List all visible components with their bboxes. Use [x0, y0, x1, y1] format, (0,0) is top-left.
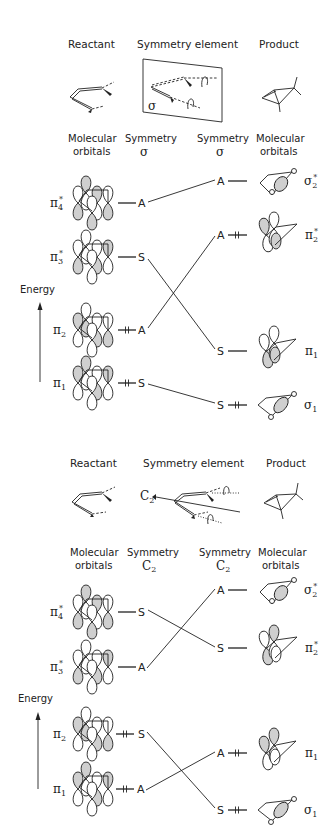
- reactant-orbital-pi4-star-2: π4*: [50, 585, 113, 639]
- svg-text:π1: π1: [53, 376, 66, 392]
- svg-text:C2: C2: [142, 559, 156, 574]
- energy-label: Energy: [20, 284, 55, 295]
- right-mo-header-2b: orbitals: [262, 560, 299, 571]
- reactant-orbital-pi2-2: π2: [53, 707, 113, 761]
- right-sym-header-1: Symmetry: [197, 133, 249, 144]
- right-sym-header-2b: C: [216, 559, 225, 573]
- right-sym-pi2-star: A: [217, 229, 225, 242]
- right-sym-pi1-2: A: [217, 747, 225, 760]
- svg-text:σ1: σ1: [304, 398, 317, 414]
- reactant-orbital-pi2: π2: [53, 303, 113, 357]
- left-sym-pi4-star: A: [138, 197, 146, 210]
- svg-text:σ1: σ1: [304, 803, 317, 819]
- left-sym-pi4-star-2: S: [138, 606, 145, 619]
- right-mo-header-2: orbitals: [260, 146, 297, 157]
- svg-text:σ2*: σ2*: [304, 173, 317, 190]
- svg-text:π2*: π2*: [305, 640, 318, 657]
- left-sym-pi1-2: A: [137, 783, 145, 796]
- left-sym-header-1b: Symmetry: [127, 547, 179, 558]
- reactant-orbital-pi3-star-2: π3*: [50, 640, 113, 694]
- svg-text:π4*: π4*: [50, 604, 63, 621]
- mirror-plane-element: σ: [143, 59, 222, 122]
- product-orbital-pi1-2: π1: [258, 728, 318, 771]
- right-mo-header-1: Molecular: [256, 133, 305, 144]
- right-sym-pi2-star-2: S: [217, 642, 224, 655]
- product-orbital-sigma2-star: σ2*: [260, 169, 317, 196]
- right-sym-sigma2-star-2: A: [217, 584, 225, 597]
- correlation-lines-bottom: [146, 589, 215, 808]
- product-molecule: [262, 77, 301, 112]
- top-panel: Reactant Symmetry element Product σ: [20, 38, 318, 420]
- reactant-header: Reactant: [68, 38, 115, 50]
- svg-text:π1: π1: [53, 782, 66, 798]
- sigma-label: σ: [148, 99, 156, 113]
- correlation-lines-top: [148, 180, 215, 403]
- svg-text:σ2*: σ2*: [304, 582, 317, 599]
- left-sym-pi3-star: S: [138, 251, 145, 264]
- reactant-molecule-2: [72, 487, 115, 517]
- svg-text:π1: π1: [305, 344, 318, 360]
- svg-text:C2: C2: [216, 559, 230, 574]
- product-orbital-pi2-star: π2*: [258, 212, 318, 253]
- left-mo-header-1b: Molecular: [70, 547, 119, 558]
- reactant-molecule: [70, 82, 114, 113]
- right-mo-header-1b: Molecular: [258, 547, 307, 558]
- product-orbital-pi2-star-2: π2*: [258, 625, 318, 666]
- product-header-2: Product: [266, 457, 306, 469]
- left-mo-header-2: orbitals: [73, 146, 110, 157]
- right-sym-sigma1-2: S: [217, 804, 224, 817]
- correlation-diagram: Reactant Symmetry element Product σ: [0, 0, 332, 840]
- right-sym-header-1b: Symmetry: [199, 547, 251, 558]
- right-sym-sigma2-star: A: [217, 175, 225, 188]
- reactant-orbital-pi1-2: π1: [53, 762, 113, 816]
- svg-text:π3*: π3*: [50, 659, 63, 676]
- product-orbital-sigma2-star-2: σ2*: [260, 578, 317, 605]
- product-orbital-sigma1: σ1: [258, 392, 317, 420]
- left-sym-pi2: A: [138, 324, 146, 337]
- symmetry-element-header: Symmetry element: [137, 38, 238, 50]
- symmetry-element-header-2: Symmetry element: [143, 457, 244, 469]
- left-sym-header-2b: C: [142, 559, 151, 573]
- svg-text:π1: π1: [305, 746, 318, 762]
- product-orbital-pi1: π1: [258, 326, 318, 369]
- c2-axis-element: C2: [140, 486, 240, 524]
- reactant-orbital-pi1: π1: [53, 356, 113, 410]
- product-header: Product: [259, 38, 299, 50]
- reactant-orbital-pi3-star: π3*: [50, 230, 113, 284]
- product-molecule-2: [264, 483, 303, 519]
- left-sym-pi3-star-2: A: [138, 661, 146, 674]
- left-mo-header-2b: orbitals: [75, 560, 112, 571]
- svg-text:π3*: π3*: [50, 249, 63, 266]
- left-sym-pi2-2: S: [138, 728, 145, 741]
- right-sym-sigma1: S: [217, 399, 224, 412]
- svg-text:π2*: π2*: [305, 227, 318, 244]
- product-orbital-sigma1-2: σ1: [258, 797, 317, 825]
- left-sym-header-1: Symmetry: [125, 133, 177, 144]
- svg-text:π2: π2: [53, 727, 66, 743]
- svg-text:π4*: π4*: [50, 195, 63, 212]
- left-sym-header-2: σ: [140, 145, 148, 159]
- reactant-orbital-pi4-star: π4*: [50, 176, 113, 230]
- svg-text:π2: π2: [53, 323, 66, 339]
- energy-label-2: Energy: [18, 693, 53, 704]
- right-sym-pi1: S: [217, 345, 224, 358]
- bottom-panel: Reactant Symmetry element Product C2: [18, 457, 318, 825]
- left-mo-header-1: Molecular: [68, 133, 117, 144]
- reactant-header-2: Reactant: [70, 457, 117, 469]
- left-sym-pi1: S: [138, 377, 145, 390]
- right-sym-header-2: σ: [216, 145, 224, 159]
